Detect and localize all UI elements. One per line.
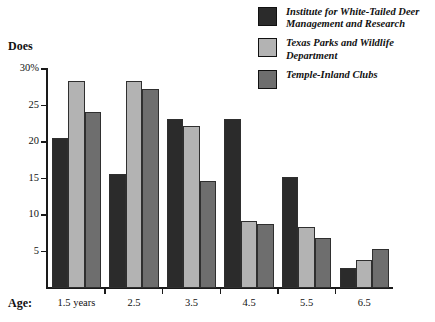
bar [356,260,372,288]
y-axis-tick [41,105,47,106]
bar [241,221,257,288]
x-axis-title: Age: [8,296,32,311]
bar [372,249,388,288]
y-axis-tick [41,178,47,179]
bar [315,238,331,288]
y-axis-tick-label: 5 [34,245,39,256]
bar [183,126,199,288]
y-axis-tick-label: 20 [29,135,40,146]
x-axis-tick [277,288,278,294]
y-axis-tick [41,214,47,215]
y-axis-tick-label: 10 [29,208,40,219]
y-axis-tick [41,68,47,69]
y-axis-tick-label: 15 [29,172,40,183]
x-axis-category-label: 1.5 years [57,297,95,308]
x-axis-category-label: 5.5 [300,297,313,308]
x-axis-category-label: 6.5 [358,297,371,308]
bar [126,81,142,288]
x-axis-tick [220,288,221,294]
y-axis-tick [41,251,47,252]
bar [167,119,183,288]
bar-chart-figure: Institute for White-Tailed Deer Manageme… [0,0,435,322]
y-axis-tick-label: 30% [20,62,39,73]
bar [298,227,314,288]
x-axis-tick [335,288,336,294]
x-axis-tick [104,288,105,294]
x-axis-category-label: 2.5 [127,297,140,308]
bar [52,138,68,288]
bar [257,224,273,288]
x-axis-tick [162,288,163,294]
x-axis-category-label: 3.5 [185,297,198,308]
y-axis-tick [41,141,47,142]
bar [85,112,101,288]
bar [224,119,240,288]
bar [142,89,158,288]
plot-area: 30%252015105 [0,0,435,322]
bar [68,81,84,288]
x-axis-category-label: 4.5 [243,297,256,308]
bar [109,174,125,288]
bar [282,177,298,288]
y-axis-tick-label: 25 [29,99,40,110]
bar [340,268,356,288]
bar [200,181,216,288]
